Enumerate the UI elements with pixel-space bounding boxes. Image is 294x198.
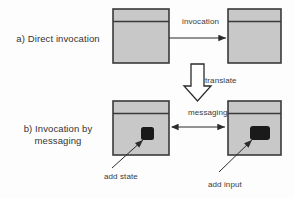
invocation-diagram: a) Direct invocation b) Invocation by me… [0, 0, 294, 198]
inner-shape-wide-rectangle [250, 126, 270, 140]
receiver-component-box [228, 101, 281, 155]
inner-shape-small-square [141, 127, 154, 140]
translate-label: translate [205, 76, 237, 85]
invocation-edge-label: invocation [182, 17, 219, 26]
messaging-edge-label: messaging [188, 108, 228, 117]
sender-component-box [113, 101, 169, 155]
diagram-canvas [0, 0, 294, 198]
row-b-label-line2: messaging [6, 135, 110, 147]
caller-component-box [113, 9, 169, 63]
row-a-label: a) Direct invocation [6, 33, 110, 45]
add-state-callout-label: add state [104, 172, 138, 181]
callee-component-box [228, 9, 281, 63]
row-b-label-line1: b) Invocation by [6, 123, 110, 135]
row-b-label: b) Invocation by messaging [6, 123, 110, 147]
add-input-callout-label: add input [208, 180, 242, 189]
